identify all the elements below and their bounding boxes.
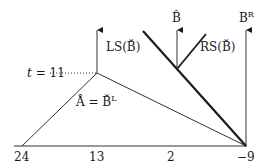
- a-equals-bl-label: Å = B̆L: [76, 96, 116, 108]
- edge-24-to-junction: [22, 73, 97, 146]
- tick-label-neg9: −9: [237, 151, 255, 163]
- b-r-label: BR: [239, 12, 254, 24]
- tick-label-24: 24: [14, 151, 29, 163]
- tick-label-13: 13: [89, 151, 104, 163]
- t-equals-label: t = 11: [27, 67, 65, 79]
- b-r-base: B: [239, 11, 248, 25]
- rs-label: RS(B̆): [200, 41, 235, 53]
- ls-label: LS(B̆): [106, 41, 140, 53]
- diagram-canvas: t = 11 LS(B̆) RS(B̆) B̂ BR Å = B̆L 24 13…: [0, 0, 267, 167]
- diagram-svg: [0, 0, 267, 167]
- t-variable: t: [27, 66, 32, 80]
- b-r-superscript: R: [248, 10, 254, 19]
- a-equals-superscript: L: [111, 94, 116, 103]
- b-hat-label: B̂: [172, 12, 181, 24]
- tick-label-2: 2: [167, 151, 175, 163]
- a-equals-base: Å = B̆: [76, 95, 111, 109]
- edge-junction-to-neg9: [97, 73, 246, 146]
- t-value: = 11: [36, 66, 65, 80]
